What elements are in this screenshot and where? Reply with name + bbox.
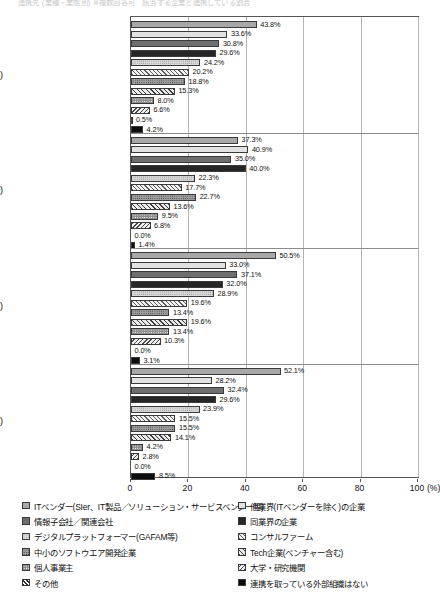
bar-value-label: 40.0% — [249, 164, 269, 173]
bar — [131, 21, 257, 28]
bar — [131, 309, 169, 316]
legend-item: その他 — [22, 575, 264, 590]
x-tick-label: 0 — [128, 483, 133, 493]
x-tick-label: 100 — [410, 483, 424, 493]
plot-area: 43.8%33.6%30.8%29.6%24.2%20.2%18.8%15.3%… — [130, 16, 419, 478]
bar-value-label: 15.3% — [178, 86, 198, 95]
bar — [131, 406, 200, 413]
bar — [131, 387, 224, 394]
legend-swatch-icon — [22, 502, 30, 510]
legend-label: その他 — [34, 577, 58, 589]
x-tick-40 — [245, 479, 246, 482]
bar — [131, 146, 248, 153]
bar-value-label: 9.5% — [162, 211, 178, 220]
bar-value-label: 32.0% — [226, 279, 246, 288]
bar-value-label: 6.8% — [154, 221, 170, 230]
bar — [131, 396, 216, 403]
bar — [131, 300, 187, 307]
legend-item: デジタルプラットフォーマー(GAFAM等) — [22, 529, 264, 544]
bar — [131, 377, 212, 384]
bar-value-label: 13.4% — [173, 308, 193, 317]
legend-swatch-icon — [238, 533, 246, 541]
legend-item: 大学・研究機関 — [238, 560, 368, 575]
category-label: アプリケーション系(n=220) — [0, 183, 3, 196]
x-tick-label: 20 — [183, 483, 193, 493]
bar — [131, 453, 139, 460]
bar-value-label: 6.6% — [153, 105, 169, 114]
bar — [131, 40, 219, 47]
legend-swatch-icon — [22, 548, 30, 556]
bar-value-label: 2.8% — [143, 452, 159, 461]
bar — [131, 271, 237, 278]
bar-value-label: 29.6% — [219, 395, 239, 404]
bar — [131, 262, 226, 269]
bar-value-label: 24.2% — [204, 58, 224, 67]
chart-title-text: 連携先 (業種・業態別) ※複数回答可 該当する企業と連携している割合 — [18, 0, 250, 7]
bar-value-label: 40.9% — [252, 145, 272, 154]
bar — [131, 434, 171, 441]
bar — [131, 117, 133, 124]
legend-label: 中小のソフトウエア開発企業 — [34, 546, 136, 558]
bar-value-label: 35.0% — [235, 154, 255, 163]
legend-item: 連携を取っている外部組織はない — [238, 575, 368, 590]
legend-swatch-icon — [22, 564, 30, 572]
legend-label: Tech企業(ベンチャー含む) — [250, 546, 343, 558]
bar-value-label: 37.1% — [241, 270, 261, 279]
category-label: インフラ・基盤系(n=97) — [0, 299, 3, 312]
legend-label: コンサルファーム — [250, 530, 313, 542]
bar-value-label: 43.8% — [260, 20, 280, 29]
bar — [131, 184, 182, 191]
x-tick-20 — [187, 479, 188, 482]
legend-item: 中小のソフトウエア開発企業 — [22, 544, 264, 559]
legend-swatch-icon — [22, 533, 30, 541]
legend-swatch-icon — [238, 517, 246, 525]
bar — [131, 156, 231, 163]
bar-value-label: 52.1% — [284, 366, 304, 375]
bar — [131, 137, 238, 144]
legend-swatch-icon — [22, 579, 30, 587]
bar-value-label: 22.7% — [200, 192, 220, 201]
bar-value-label: 0.0% — [135, 346, 151, 355]
bar-value-label: 18.8% — [188, 77, 208, 86]
bar — [131, 59, 200, 66]
x-tick-80 — [360, 479, 361, 482]
legend-swatch-icon — [238, 548, 246, 556]
bar-value-label: 13.6% — [174, 202, 194, 211]
bar-value-label: 10.3% — [164, 336, 184, 345]
bar-value-label: 4.2% — [147, 442, 163, 451]
bar-value-label: 23.9% — [203, 404, 223, 413]
bar-value-label: 37.3% — [242, 135, 262, 144]
legend-item: 他業界(ITベンダーを除く)の企業 — [238, 498, 368, 513]
legend-label: 大学・研究機関 — [250, 561, 305, 573]
bar-value-label: 28.2% — [215, 376, 235, 385]
bar — [131, 328, 169, 335]
bar — [131, 338, 161, 345]
legend-item: ITベンダー(SIer、IT製品／ソリューション・サービスベンダー等) — [22, 498, 264, 513]
bar — [131, 281, 223, 288]
bar-value-label: 0.0% — [135, 462, 151, 471]
x-tick-60 — [302, 479, 303, 482]
bar — [131, 203, 170, 210]
bar — [131, 78, 185, 85]
bar-value-label: 15.5% — [179, 414, 199, 423]
legend-swatch-icon — [22, 517, 30, 525]
bar-value-label: 30.8% — [223, 39, 243, 48]
legend-label: 個人事業主 — [34, 561, 73, 573]
bar — [131, 69, 189, 76]
bar-value-label: 17.7% — [185, 183, 205, 192]
bar-value-label: 29.6% — [219, 48, 239, 57]
x-axis-unit-label: (%) — [427, 483, 440, 493]
legend-label: 他業界(ITベンダーを除く)の企業 — [250, 500, 364, 512]
bar-value-label: 33.0% — [229, 260, 249, 269]
bar-value-label: 19.6% — [191, 317, 211, 326]
bar — [131, 415, 175, 422]
bar-value-label: 28.9% — [217, 289, 237, 298]
bar — [131, 50, 216, 57]
bar — [131, 165, 246, 172]
legend-swatch-icon — [238, 502, 246, 510]
bar-group: 52.1%28.2%32.4%29.6%23.9%15.5%15.5%14.1%… — [131, 364, 418, 480]
x-axis: (%) 020406080100 — [130, 479, 419, 495]
bar-value-label: 20.2% — [192, 67, 212, 76]
x-tick-label: 60 — [297, 483, 307, 493]
bar-value-label: 50.5% — [279, 251, 299, 260]
